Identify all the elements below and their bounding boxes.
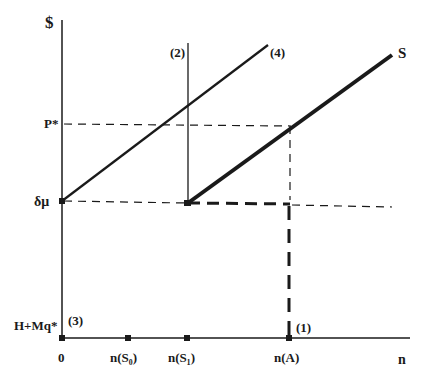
p-star-dashed-line xyxy=(64,124,291,126)
delta-mu-dashed-line xyxy=(64,201,186,203)
x-tick-origin: 0 xyxy=(58,350,65,365)
curve-3-label: (3) xyxy=(68,313,83,328)
p-star-label: P* xyxy=(44,116,58,131)
marker-n-a xyxy=(286,335,292,341)
x-axis-label: n xyxy=(398,352,406,367)
marker-n-s1 xyxy=(184,335,190,341)
delta-mu-label: δμ xyxy=(34,194,49,209)
curve-4 xyxy=(62,45,268,201)
curve-2-label: (2) xyxy=(170,45,185,60)
marker-origin xyxy=(59,335,65,341)
x-tick-n-a: n(A) xyxy=(274,350,299,365)
curve-1-label: (1) xyxy=(296,320,311,335)
h-mq-label: H+Mq* xyxy=(14,318,58,333)
thick-dashed-horizontal xyxy=(188,203,290,204)
x-tick-n-s0: n(S₀) xyxy=(110,350,137,365)
curve-4-label: (4) xyxy=(270,45,285,60)
supply-curve-s xyxy=(188,55,392,203)
x-tick-n-s1: n(S₁) xyxy=(168,350,195,365)
marker-delta-mu xyxy=(59,198,65,204)
supply-diagram: $ P* δμ H+Mq* (3) (2) (4) S (1) 0 n(S₀) … xyxy=(0,0,423,382)
y-axis-label: $ xyxy=(45,13,54,32)
delta-mu-dashed-extension xyxy=(292,205,392,207)
marker-s-start xyxy=(184,200,191,206)
marker-n-s0 xyxy=(125,335,131,341)
s-label: S xyxy=(398,45,406,61)
